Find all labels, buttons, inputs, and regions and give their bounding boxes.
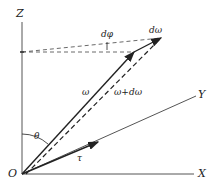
omega-plus-domega-label: ω+dω (114, 88, 142, 97)
tau-vector (22, 142, 98, 174)
tau-label: τ (77, 154, 82, 163)
dphi-label: dφ (101, 30, 113, 39)
domega-vector (134, 38, 161, 52)
theta-label: θ (34, 132, 39, 141)
origin-label: O (8, 168, 17, 179)
z-axis-label: Z (16, 8, 24, 19)
x-axis-label: X (198, 168, 206, 179)
domega-label: dω (149, 26, 162, 35)
dashed-projection-top (22, 38, 161, 52)
precession-diagram: Z X Y O dφ dω ω ω+dω θ τ (0, 0, 224, 188)
omega-plus-domega-vector (26, 38, 161, 174)
y-axis-label: Y (198, 89, 205, 100)
omega-label: ω (82, 88, 89, 97)
